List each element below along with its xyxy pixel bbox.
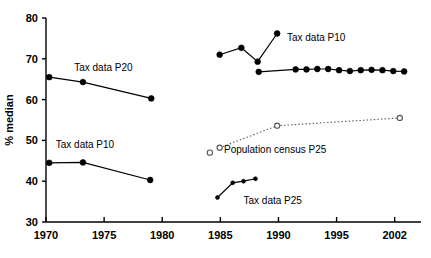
series-annotation-label: Tax data P10: [287, 32, 346, 43]
series-point: [358, 67, 364, 73]
x-axis-tick-label: 1995: [324, 229, 348, 241]
x-axis-tick-label: 1975: [92, 229, 116, 241]
chart-svg: 3040506070801970197519801985199019952002…: [0, 0, 431, 258]
chart-axis-titles: % median: [3, 94, 15, 146]
legend-marker: [207, 150, 212, 155]
series-point: [336, 67, 342, 73]
series-point: [274, 31, 280, 37]
series-point: [242, 179, 246, 183]
series-point: [304, 67, 310, 73]
series-point: [217, 145, 222, 150]
series-point: [325, 66, 331, 72]
series-point: [256, 69, 262, 75]
series-point: [314, 66, 320, 72]
y-axis-tick-label: 30: [26, 216, 38, 228]
series-point: [238, 45, 244, 51]
y-axis-tick-label: 40: [26, 175, 38, 187]
series-point: [401, 69, 407, 75]
y-axis-tick-label: 60: [26, 94, 38, 106]
y-axis-tick-label: 80: [26, 12, 38, 24]
series-point: [293, 67, 299, 73]
x-axis-tick-label: 1970: [34, 229, 58, 241]
x-axis-tick-label: 2002: [382, 229, 406, 241]
series-point: [148, 95, 154, 101]
series-annotation-label: Tax data P25: [244, 195, 303, 206]
series-point: [253, 177, 257, 181]
series-point: [390, 68, 396, 74]
series-point: [80, 160, 86, 166]
series-point: [231, 181, 235, 185]
y-axis-tick-label: 50: [26, 134, 38, 146]
series-point: [347, 68, 353, 74]
series-annotation-label: Tax data P10: [56, 139, 115, 150]
series-point: [217, 52, 223, 58]
series-point: [369, 67, 375, 73]
series-annotation-label: Population census P25: [224, 144, 327, 155]
series-annotation-label: Tax data P20: [74, 62, 133, 73]
x-axis-tick-label: 1985: [208, 229, 232, 241]
x-axis-tick-label: 1980: [150, 229, 174, 241]
y-axis-title: % median: [3, 94, 15, 146]
y-axis-tick-label: 70: [26, 53, 38, 65]
series-point: [397, 115, 402, 120]
series-point: [46, 74, 52, 80]
series-point: [46, 160, 52, 166]
series-point: [255, 59, 261, 65]
chart-container: 3040506070801970197519801985199019952002…: [0, 0, 431, 258]
series-point: [275, 123, 280, 128]
x-axis-tick-label: 1990: [266, 229, 290, 241]
chart-background: [0, 0, 431, 258]
series-point: [80, 79, 86, 85]
series-point: [380, 67, 386, 73]
series-point: [147, 177, 153, 183]
series-point: [215, 196, 219, 200]
